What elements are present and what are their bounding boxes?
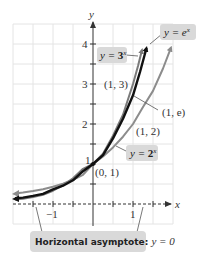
y-tick-1: 1 [85, 154, 91, 166]
box-3x-lhs: y = [99, 49, 118, 61]
y-tick-3: 3 [82, 78, 88, 90]
svg-text:y = 2x: y = 2x [129, 147, 157, 159]
box-2x-lhs: y = [129, 147, 148, 159]
svg-text:y = ex: y = ex [163, 26, 191, 38]
x-axis-label: x [174, 198, 180, 210]
asymptote-callout: Horizontal asymptote: y = 0 [30, 231, 175, 252]
x-tick-neg1: −1 [46, 208, 58, 220]
y-tick-2: 2 [82, 118, 88, 130]
point-label-1-3: (1, 3) [104, 78, 128, 91]
label-box-3-pow-x: y = 3x [97, 47, 127, 63]
asymptote-text: Horizontal asymptote: [35, 237, 151, 247]
label-box-e-pow-x: y = ex [160, 24, 196, 40]
box-ex-lhs: y = [163, 26, 182, 38]
svg-text:Horizontal asymptote: y = 0: Horizontal asymptote: y = 0 [35, 235, 175, 247]
point-label-1-2: (1, 2) [136, 125, 160, 138]
exponential-functions-chart: x −1 1 y 4 3 2 1 (1, 3) (1, e) (1, 2) [0, 0, 204, 262]
point-label-0-1: (0, 1) [95, 166, 119, 179]
x-tick-1: 1 [130, 208, 136, 220]
label-box-2-pow-x: y = 2x [126, 145, 158, 161]
point-label-1-e: (1, e) [162, 106, 186, 119]
asymptote-equation: y = 0 [150, 235, 175, 247]
y-tick-4: 4 [82, 38, 88, 50]
svg-text:y = 3x: y = 3x [99, 49, 127, 61]
y-axis: y 4 3 2 1 [82, 8, 96, 226]
y-axis-label: y [88, 8, 94, 20]
